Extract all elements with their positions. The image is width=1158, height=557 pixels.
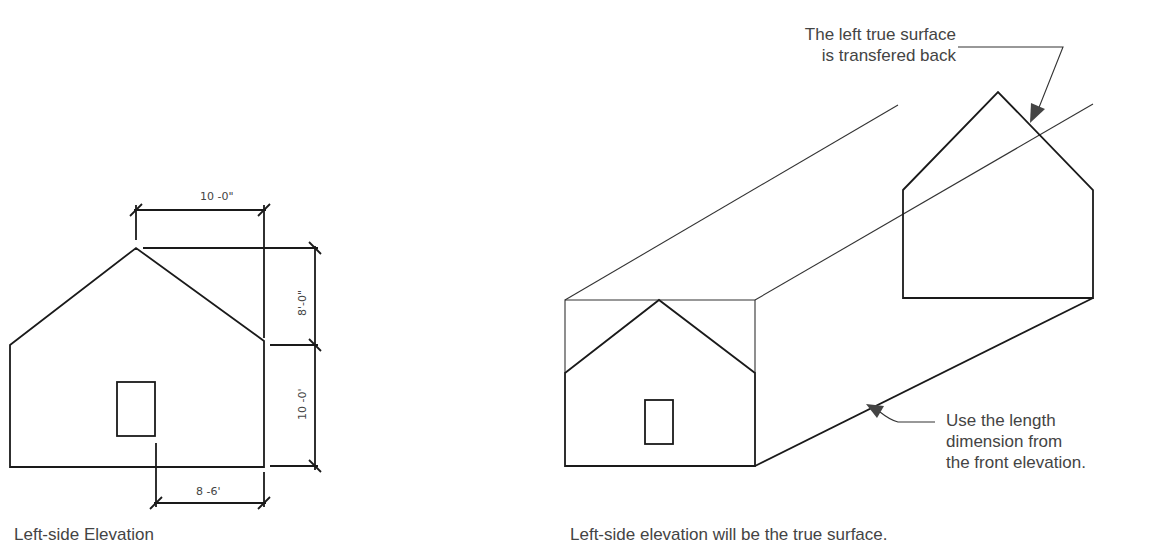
callout-top-leader	[958, 47, 1063, 123]
front-house-face	[565, 300, 755, 466]
callout-top-line1: The left true surface	[740, 24, 956, 45]
callout-top-line2: is transfered back	[740, 45, 956, 66]
house-window	[117, 382, 155, 436]
callout-bottom-leader	[866, 404, 935, 422]
drawing-canvas: 10 -0" 8'-0" 10 -0' 8 -6'	[0, 0, 1158, 557]
dim-bottom-offset: 8 -6'	[196, 485, 221, 498]
house-outline	[10, 248, 264, 467]
receding-line-top-left	[565, 105, 898, 300]
dim-roof-height: 8'-0"	[296, 290, 309, 316]
arrowhead-top	[1030, 103, 1045, 123]
right-figure-caption: Left-side elevation will be the true sur…	[570, 525, 888, 545]
callout-bottom-line3: the front elevation.	[946, 452, 1086, 473]
callout-bottom-line1: Use the length	[946, 410, 1086, 431]
callout-bottom-line2: dimension from	[946, 431, 1086, 452]
front-house-window	[645, 400, 673, 444]
front-bounding-box	[565, 300, 755, 373]
arrowhead-bottom	[866, 404, 884, 418]
left-elevation-house	[10, 248, 264, 467]
callout-top: The left true surface is transfered back	[740, 24, 956, 66]
dim-top-width: 10 -0"	[200, 190, 234, 203]
receding-line-top-right	[755, 104, 1093, 300]
left-elevation-dimensions	[130, 204, 321, 509]
back-house-face	[903, 92, 1093, 298]
left-figure-caption: Left-side Elevation	[14, 525, 154, 545]
callout-bottom: Use the length dimension from the front …	[946, 410, 1086, 473]
dim-wall-height: 10 -0'	[296, 389, 309, 421]
